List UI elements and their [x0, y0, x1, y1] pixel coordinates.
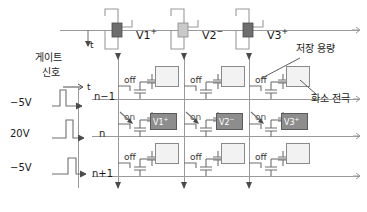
pixel-voltage-label-r1c2: V3+	[284, 117, 299, 127]
data-line-polarity-col3: +	[282, 27, 289, 36]
pixel-voltage-value-r1c0: V1	[153, 118, 164, 127]
data-line-polarity-col1: +	[151, 27, 158, 36]
gate-waveform-row-n-plus-1	[52, 155, 92, 179]
data-column-end-arrow-3-icon	[245, 182, 255, 194]
data-column-arrow-2-icon	[180, 53, 190, 65]
gate-signal-title-line2: 신호	[42, 68, 60, 78]
data-pulse-symbol-col2	[170, 8, 200, 53]
row-label-n-minus-1: n−1	[94, 92, 115, 102]
data-line-label-col3-text: V3	[267, 29, 282, 42]
data-line-polarity-col2: −	[217, 27, 224, 36]
data-line-label-col2-text: V2	[202, 29, 217, 42]
gate-voltage-label-row-n-minus-1: −5V	[10, 98, 32, 108]
data-line-label-col3: V3+	[267, 28, 288, 41]
data-bus-time-label: t	[90, 41, 94, 50]
data-column-arrow-3-icon	[245, 53, 255, 65]
pixel-voltage-polarity-r1c2: +	[295, 116, 300, 122]
gate-voltage-label-row-n: 20V	[10, 129, 30, 139]
pixel-electrode-r2c2	[286, 143, 310, 164]
data-column-end-arrow-1-icon	[114, 182, 124, 194]
data-line-label-col1: V1+	[136, 28, 157, 41]
data-column-arrow-1-icon	[114, 53, 124, 65]
gate-row-arrow-n-plus-1-icon	[353, 171, 365, 182]
annotation-pixel-electrode-leader-line	[300, 80, 322, 100]
gate-waveform-row-n-minus-1	[52, 88, 90, 112]
data-bus-arrow-icon	[352, 25, 364, 36]
pixel-voltage-polarity-r1c0: +	[164, 116, 169, 122]
row-label-n-plus-1: n+1	[92, 169, 113, 179]
figure-canvas: t V1+ V2− V3+ 게이트 신호	[0, 0, 367, 212]
gate-voltage-label-row-n-plus-1: −5V	[10, 163, 32, 173]
gate-row-arrow-n-icon	[353, 131, 365, 142]
data-pulse-symbol-col1	[104, 8, 134, 53]
annotation-storage-capacitance-leader-line	[262, 56, 304, 80]
annotation-storage-capacitance-label: 저장 용량	[296, 44, 335, 54]
gate-signal-title-line1: 게이트	[35, 53, 62, 63]
pixel-voltage-value-r1c2: V3	[284, 118, 295, 127]
pixel-electrode-r0c1	[221, 66, 245, 87]
gate-row-arrow-n-minus-1-icon	[353, 94, 365, 105]
pixel-electrode-r2c0	[155, 143, 179, 164]
data-column-end-arrow-2-icon	[180, 182, 190, 194]
row-label-n: n	[99, 129, 105, 139]
pixel-voltage-value-r1c1: V2	[219, 118, 230, 127]
pixel-electrode-r0c0	[155, 66, 179, 87]
data-line-label-col2: V2−	[202, 28, 223, 41]
data-line-label-col1-text: V1	[136, 29, 151, 42]
pixel-voltage-label-r1c0: V1+	[153, 117, 168, 127]
pixel-voltage-polarity-r1c1: −	[230, 116, 235, 122]
gate-waveform-row-n	[52, 118, 90, 144]
pixel-electrode-r2c1	[221, 143, 245, 164]
pixel-voltage-label-r1c1: V2−	[219, 117, 234, 127]
data-pulse-symbol-col3	[235, 8, 265, 53]
